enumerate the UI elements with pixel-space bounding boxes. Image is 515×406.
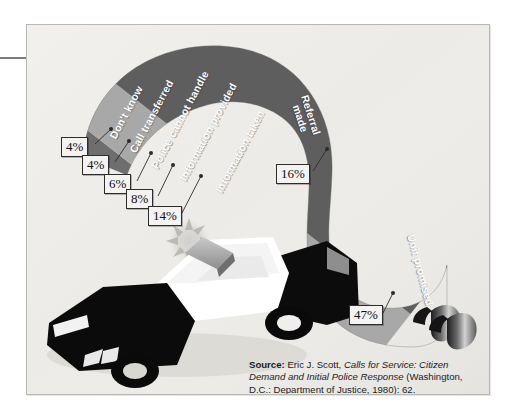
callout-information-taken: 14% <box>148 206 182 226</box>
source-label: Source: <box>249 359 285 370</box>
car-wheel-rear-hub <box>277 315 301 331</box>
callout-call-transferred: 4% <box>82 155 109 175</box>
source-citation: Source: Eric J. Scott, Calls for Service… <box>249 359 481 395</box>
car-wheel-front-hub <box>123 363 147 379</box>
infographic-artwork <box>27 25 489 394</box>
callout-dont-know: 4% <box>61 137 88 157</box>
callout-referral-made: 16% <box>276 164 310 184</box>
callout-unit-promised: 47% <box>349 305 383 325</box>
source-author: Eric J. Scott, <box>285 359 344 370</box>
figure-root: Don't know Call transferred Police canno… <box>0 0 515 406</box>
figure-panel-inner: Don't know Call transferred Police canno… <box>27 25 489 394</box>
figure-panel: Don't know Call transferred Police canno… <box>26 24 490 395</box>
